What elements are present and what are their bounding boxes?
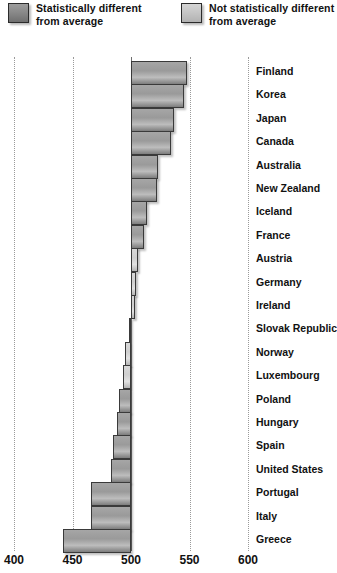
legend-swatch-significant-icon bbox=[8, 3, 29, 23]
chart-x-axis: 400450500550600 bbox=[0, 551, 334, 573]
legend-item-not-statistically-different: Not statistically different from average bbox=[181, 2, 334, 27]
bar-row: Portugal bbox=[0, 482, 334, 506]
bar-luxembourg[interactable] bbox=[123, 365, 131, 389]
bar-hungary[interactable] bbox=[117, 412, 131, 436]
x-tick-label-550: 550 bbox=[179, 553, 199, 567]
category-label-finland: Finland bbox=[256, 65, 293, 77]
bar-slovak-republic[interactable] bbox=[129, 318, 131, 342]
bar-row: Spain bbox=[0, 435, 334, 459]
bar-row: Slovak Republic bbox=[0, 318, 334, 342]
bar-norway[interactable] bbox=[125, 342, 131, 366]
category-label-japan: Japan bbox=[256, 112, 286, 124]
x-tick-label-500: 500 bbox=[121, 553, 141, 567]
bar-iceland[interactable] bbox=[131, 201, 147, 225]
category-label-korea: Korea bbox=[256, 88, 286, 100]
bar-row: Norway bbox=[0, 342, 334, 366]
legend-label-significant-line2: from average bbox=[36, 15, 103, 27]
category-label-france: France bbox=[256, 229, 290, 241]
chart-bars: FinlandKoreaJapanCanadaAustraliaNew Zeal… bbox=[0, 46, 334, 551]
bar-france[interactable] bbox=[131, 225, 144, 249]
bar-row: Iceland bbox=[0, 201, 334, 225]
category-label-australia: Australia bbox=[256, 159, 301, 171]
bar-new-zealand[interactable] bbox=[131, 178, 157, 202]
bar-row: New Zealand bbox=[0, 178, 334, 202]
bar-spain[interactable] bbox=[113, 435, 131, 459]
category-label-austria: Austria bbox=[256, 252, 292, 264]
bar-row: Austria bbox=[0, 248, 334, 272]
bar-japan[interactable] bbox=[131, 108, 174, 132]
bar-finland[interactable] bbox=[131, 61, 187, 85]
bar-poland[interactable] bbox=[119, 389, 131, 413]
bar-row: Hungary bbox=[0, 412, 334, 436]
bar-row: Korea bbox=[0, 84, 334, 108]
category-label-iceland: Iceland bbox=[256, 205, 292, 217]
bar-row: Japan bbox=[0, 108, 334, 132]
category-label-slovak-republic: Slovak Republic bbox=[256, 322, 337, 334]
category-label-luxembourg: Luxembourg bbox=[256, 369, 320, 381]
category-label-poland: Poland bbox=[256, 393, 291, 405]
bar-row: Ireland bbox=[0, 295, 334, 319]
legend-swatch-not-significant-icon bbox=[181, 3, 202, 23]
bar-australia[interactable] bbox=[131, 155, 158, 179]
bar-ireland[interactable] bbox=[131, 295, 135, 319]
legend-label-not-significant-line2: from average bbox=[209, 15, 276, 27]
category-label-new-zealand: New Zealand bbox=[256, 182, 320, 194]
category-label-ireland: Ireland bbox=[256, 299, 290, 311]
bar-row: Poland bbox=[0, 389, 334, 413]
legend-item-statistically-different: Statistically different from average bbox=[8, 2, 142, 27]
category-label-united-states: United States bbox=[256, 463, 323, 475]
category-label-portugal: Portugal bbox=[256, 486, 299, 498]
category-label-hungary: Hungary bbox=[256, 416, 299, 428]
category-label-italy: Italy bbox=[256, 510, 277, 522]
legend-label-not-significant-line1: Not statistically different bbox=[209, 2, 334, 14]
chart-plot-area: FinlandKoreaJapanCanadaAustraliaNew Zeal… bbox=[0, 46, 334, 551]
bar-row: United States bbox=[0, 459, 334, 483]
x-tick-label-400: 400 bbox=[4, 553, 24, 567]
category-label-germany: Germany bbox=[256, 276, 302, 288]
bar-row: Italy bbox=[0, 506, 334, 530]
bar-row: Finland bbox=[0, 61, 334, 85]
category-label-spain: Spain bbox=[256, 439, 285, 451]
x-tick-label-600: 600 bbox=[238, 553, 258, 567]
bar-row: Canada bbox=[0, 131, 334, 155]
bar-canada[interactable] bbox=[131, 131, 171, 155]
bar-austria[interactable] bbox=[131, 248, 138, 272]
legend-label-not-significant: Not statistically different from average bbox=[209, 2, 334, 27]
bar-italy[interactable] bbox=[91, 506, 131, 530]
bar-united-states[interactable] bbox=[111, 459, 131, 483]
bar-korea[interactable] bbox=[131, 84, 184, 108]
bar-row: Luxembourg bbox=[0, 365, 334, 389]
bar-row: Australia bbox=[0, 155, 334, 179]
bar-germany[interactable] bbox=[131, 272, 136, 296]
category-label-norway: Norway bbox=[256, 346, 294, 358]
bar-greece[interactable] bbox=[63, 529, 131, 553]
bar-row: Greece bbox=[0, 529, 334, 553]
bar-portugal[interactable] bbox=[91, 482, 131, 506]
category-label-canada: Canada bbox=[256, 135, 294, 147]
category-label-greece: Greece bbox=[256, 533, 292, 545]
legend-label-significant: Statistically different from average bbox=[36, 2, 142, 27]
bar-row: France bbox=[0, 225, 334, 249]
chart-legend: Statistically different from average Not… bbox=[0, 0, 334, 34]
legend-label-significant-line1: Statistically different bbox=[36, 2, 142, 14]
x-tick-label-450: 450 bbox=[62, 553, 82, 567]
bar-row: Germany bbox=[0, 272, 334, 296]
